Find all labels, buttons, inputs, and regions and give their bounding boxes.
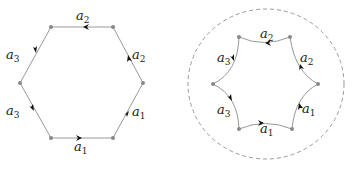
arrow-icons — [29, 24, 132, 141]
hexagon-edges — [20, 27, 143, 138]
hexagon-figure — [18, 24, 145, 141]
edge-labels: a2a2a1a1a3a3a2a2a1a1a3a3 — [6, 8, 316, 156]
edge-label: a1 — [302, 101, 316, 118]
edge-label: a2 — [132, 47, 146, 64]
edge-label: a2 — [76, 8, 90, 25]
hexagon-vertices — [18, 25, 145, 140]
edge-label: a3 — [6, 103, 20, 120]
edge-label: a2 — [260, 26, 274, 43]
edge-label: a1 — [132, 104, 146, 121]
edge-label: a2 — [300, 50, 314, 67]
curved-arrow-icons — [227, 40, 304, 126]
diagram-canvas: a2a2a1a1a3a3a2a2a1a1a3a3 — [0, 0, 358, 169]
edge-label: a1 — [74, 139, 88, 156]
edge-label: a3 — [217, 50, 231, 67]
edge-label: a3 — [217, 102, 231, 119]
edge-label: a3 — [6, 47, 20, 64]
